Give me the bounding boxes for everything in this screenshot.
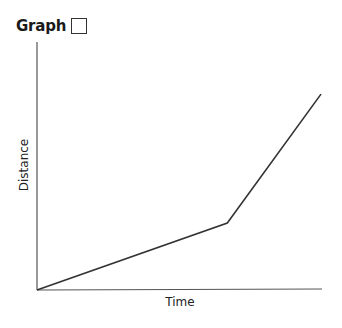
x-axis-label: Time xyxy=(0,295,342,309)
line-chart xyxy=(0,0,342,328)
distance-time-line xyxy=(37,94,321,290)
y-axis-label: Distance xyxy=(17,139,31,191)
x-axis xyxy=(37,289,322,290)
